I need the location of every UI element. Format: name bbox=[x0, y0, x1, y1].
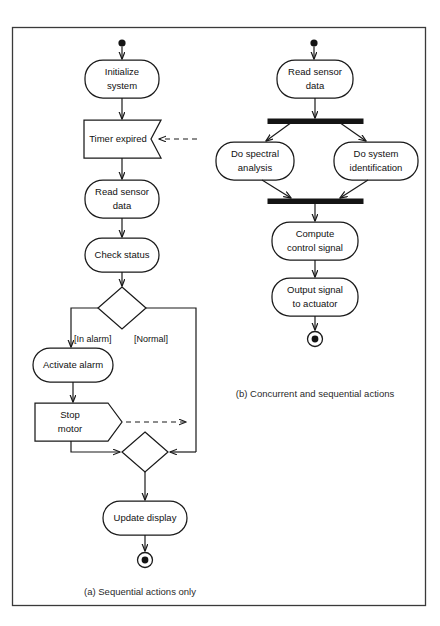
activity-read-sensor-data-b-label-2: data bbox=[306, 80, 325, 91]
initial-state-dot-a bbox=[118, 39, 125, 46]
activity-compute-control-signal-label-1: Compute bbox=[296, 228, 335, 239]
flow-stop-motor-to-merge bbox=[71, 441, 120, 452]
decision-diamond-status bbox=[98, 287, 146, 329]
activity-initialize-system-label-1: Initialize bbox=[105, 66, 139, 77]
activity-do-spectral-analysis-label-2: analysis bbox=[238, 162, 273, 173]
activity-activate-alarm-label: Activate alarm bbox=[43, 359, 103, 370]
final-state-dot-b bbox=[312, 336, 319, 343]
figure-frame bbox=[13, 28, 426, 606]
initial-state-dot-b bbox=[310, 39, 317, 46]
flow-fork-to-system-identification bbox=[341, 124, 366, 142]
diagram-a: Initialize system Timer expired Read sen… bbox=[33, 39, 197, 596]
merge-diamond-status bbox=[122, 432, 168, 472]
activity-do-system-identification-label-1: Do system bbox=[354, 148, 399, 159]
activity-initialize-system-label-2: system bbox=[107, 80, 137, 91]
diagram-b: Read sensor data Do spectral analysis Do… bbox=[216, 39, 418, 398]
signal-send-stop-motor-label-2: motor bbox=[58, 423, 82, 434]
activity-update-display-label: Update display bbox=[114, 512, 177, 523]
flow-system-identification-to-join bbox=[340, 180, 368, 198]
caption-diagram-b: (b) Concurrent and sequential actions bbox=[236, 388, 395, 399]
activity-compute-control-signal-label-2: control signal bbox=[287, 242, 343, 253]
activity-output-signal-to-actuator-label-2: to actuator bbox=[293, 298, 338, 309]
signal-send-stop-motor-label-1: Stop bbox=[60, 409, 80, 420]
flow-fork-to-spectral-analysis bbox=[266, 124, 290, 142]
signal-receipt-timer-expired-label: Timer expired bbox=[89, 133, 147, 144]
activity-output-signal-to-actuator-label-1: Output signal bbox=[287, 284, 343, 295]
guard-label-normal: [Normal] bbox=[134, 334, 168, 344]
activity-do-spectral-analysis-label-1: Do spectral bbox=[231, 148, 279, 159]
flow-decision-normal bbox=[146, 308, 196, 452]
caption-diagram-a: (a) Sequential actions only bbox=[84, 586, 196, 597]
fork-bar bbox=[268, 119, 363, 124]
guard-label-in-alarm: [In alarm] bbox=[74, 334, 112, 344]
final-state-dot-a bbox=[142, 557, 149, 564]
activity-diagram-figure: Initialize system Timer expired Read sen… bbox=[0, 0, 440, 626]
flow-spectral-analysis-to-join bbox=[262, 180, 291, 198]
activity-check-status-label: Check status bbox=[95, 249, 150, 260]
activity-read-sensor-data-b-label-1: Read sensor bbox=[288, 66, 342, 77]
activity-do-system-identification-label-2: identification bbox=[350, 162, 403, 173]
activity-read-sensor-data-a-label-2: data bbox=[113, 200, 132, 211]
join-bar bbox=[268, 199, 363, 204]
activity-read-sensor-data-a-label-1: Read sensor bbox=[95, 186, 149, 197]
